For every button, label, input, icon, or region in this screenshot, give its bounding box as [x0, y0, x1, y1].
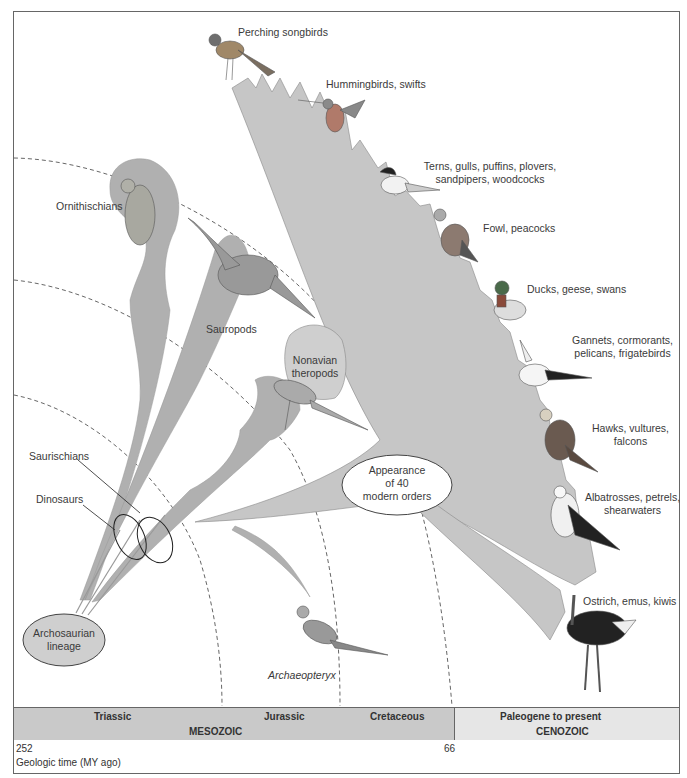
label-nonavian-line2: theropods — [285, 367, 345, 380]
tick-66: 66 — [444, 743, 455, 754]
period-cretaceous: Cretaceous — [370, 711, 424, 722]
era-cenozoic: CENOZOIC — [536, 726, 589, 737]
label-hawks-line1: Hawks, vultures, — [583, 422, 678, 435]
label-terns: Terns, gulls, puffins, plovers, sandpipe… — [410, 160, 570, 186]
tick-252: 252 — [16, 743, 33, 754]
label-appearance-line2: of 40 — [347, 477, 447, 490]
label-ducks: Ducks, geese, swans — [527, 283, 626, 296]
era-mesozoic: MESOZOIC — [189, 726, 242, 737]
label-albatrosses-line2: shearwaters — [580, 504, 685, 517]
archaeopteryx-icon — [297, 606, 388, 655]
ostrich-icon — [567, 595, 636, 692]
label-nonavian-theropods: Nonavian theropods — [285, 354, 345, 380]
label-appearance-line3: modern orders — [347, 490, 447, 503]
label-archosaurian-line2: lineage — [24, 640, 104, 653]
label-perching-songbirds: Perching songbirds — [238, 26, 328, 39]
label-fowl: Fowl, peacocks — [483, 222, 555, 235]
period-jurassic: Jurassic — [264, 711, 305, 722]
label-archosaurian: Archosaurian lineage — [24, 627, 104, 653]
label-albatrosses-line1: Albatrosses, petrels, — [580, 491, 685, 504]
label-gannets: Gannets, cormorants, pelicans, frigatebi… — [560, 334, 685, 360]
label-nonavian-line1: Nonavian — [285, 354, 345, 367]
songbird-icon — [209, 34, 275, 80]
sauropod-branch — [85, 235, 250, 600]
label-appearance-line1: Appearance — [347, 464, 447, 477]
label-saurischians: Saurischians — [29, 450, 89, 463]
label-dinosaurs: Dinosaurs — [36, 493, 83, 506]
duck-icon — [494, 281, 526, 320]
geologic-period-bar: Triassic Jurassic Cretaceous Paleogene t… — [13, 707, 680, 741]
period-triassic: Triassic — [94, 711, 131, 722]
label-terns-line2: sandpipers, woodcocks — [410, 173, 570, 186]
label-gannets-line2: pelicans, frigatebirds — [560, 347, 685, 360]
label-hawks: Hawks, vultures, falcons — [583, 422, 678, 448]
label-sauropods: Sauropods — [206, 323, 257, 336]
label-ostrich: Ostrich, emus, kiwis — [583, 595, 676, 608]
label-gannets-line1: Gannets, cormorants, — [560, 334, 685, 347]
label-appearance: Appearance of 40 modern orders — [347, 464, 447, 503]
label-ornithischians: Ornithischians — [56, 200, 123, 213]
label-hummingbirds: Hummingbirds, swifts — [326, 78, 426, 91]
label-hawks-line2: falcons — [583, 435, 678, 448]
geologic-time-axis: 252 Geologic time (MY ago) 66 — [13, 740, 680, 774]
label-archosaurian-line1: Archosaurian — [24, 627, 104, 640]
period-paleogene: Paleogene to present — [500, 711, 601, 722]
archaeopteryx-branch — [232, 526, 310, 597]
label-albatrosses: Albatrosses, petrels, shearwaters — [580, 491, 685, 517]
label-terns-line1: Terns, gulls, puffins, plovers, — [410, 160, 570, 173]
axis-label: Geologic time (MY ago) — [16, 757, 121, 768]
label-archaeopteryx: Archaeopteryx — [268, 669, 336, 682]
